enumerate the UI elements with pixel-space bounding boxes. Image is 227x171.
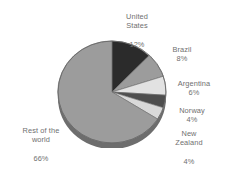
pie-label-rest-of-world-line2: world [6, 135, 76, 144]
pie-label-new-zealand-line1: New [181, 129, 196, 138]
pie-label-new-zealand: New Zealand 4% [161, 120, 217, 171]
pie-label-rest-of-world: Rest of the world 66% [6, 117, 76, 171]
pie-label-united-states-line1: United [126, 12, 148, 21]
pie-label-norway-line1: Norway [179, 106, 205, 115]
pie-label-brazil-line1: Brazil [172, 45, 191, 54]
pie-label-brazil-value: 8% [158, 54, 206, 63]
pie-label-united-states: United States 12% [110, 3, 164, 58]
pie-chart-screenshot: United States 12% Brazil 8% Argentina 6%… [0, 0, 227, 171]
pie-label-united-states-value: 12% [110, 40, 164, 49]
pie-label-brazil: Brazil 8% [158, 36, 206, 73]
pie-label-united-states-line2: States [110, 21, 164, 30]
pie-label-rest-of-world-value: 66% [6, 154, 76, 163]
pie-label-argentina-line1: Argentina [178, 79, 211, 88]
pie-label-rest-of-world-line1: Rest of the [23, 126, 60, 135]
pie-label-new-zealand-line2: Zealand [161, 138, 217, 147]
pie-label-new-zealand-value: 4% [161, 157, 217, 166]
